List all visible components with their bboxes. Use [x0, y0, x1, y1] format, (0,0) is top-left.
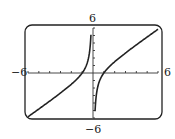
xmin-label: −6 — [11, 67, 27, 78]
axes — [28, 28, 158, 118]
xmax-label: 6 — [164, 67, 171, 78]
ymin-label: −6 — [85, 124, 101, 135]
ymax-label: 6 — [89, 13, 96, 24]
